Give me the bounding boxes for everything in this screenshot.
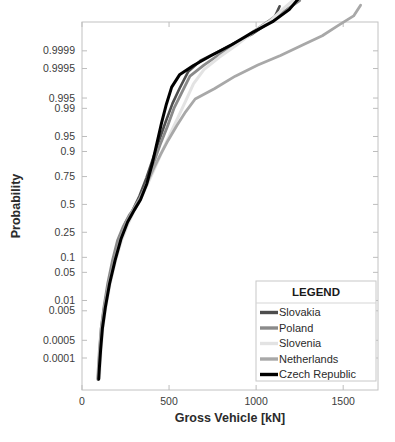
legend-label-czech-republic: Czech Republic [279,368,357,380]
y-tick-label: 0.995 [49,92,75,104]
y-tick-label: 0.9 [60,145,75,157]
y-tick-label: 0.01 [55,294,76,306]
x-tick-label: 1500 [331,395,355,407]
x-tick-label: 0 [79,395,85,407]
y-tick-label: 0.99 [55,102,76,114]
legend-label-slovakia: Slovakia [279,306,321,318]
y-tick-label: 0.0005 [43,334,75,346]
y-tick-label: 0.5 [60,198,75,210]
chart-canvas: 0.00010.00050.0050.010.050.10.250.50.750… [0,0,395,442]
x-tick-label: 500 [160,395,178,407]
y-tick-label: 0.25 [55,226,76,238]
y-tick-label: 0.9999 [43,44,75,56]
y-tick-label: 0.1 [60,251,75,263]
y-tick-label: 0.005 [49,304,75,316]
y-tick-label: 0.9995 [43,62,75,74]
x-tick-label: 1000 [244,395,268,407]
legend-label-slovenia: Slovenia [279,337,322,349]
legend-title: LEGEND [292,286,340,298]
legend-label-netherlands: Netherlands [279,353,339,365]
legend: LEGENDSlovakiaPolandSloveniaNetherlandsC… [256,281,376,381]
y-tick-label: 0.95 [55,130,76,142]
legend-label-poland: Poland [279,322,313,334]
y-tick-label: 0.75 [55,170,76,182]
y-tick-label: 0.05 [55,266,76,278]
y-axis-title: Probability [9,174,23,239]
probability-plot-figure: 0.00010.00050.0050.010.050.10.250.50.750… [0,0,395,442]
y-tick-label: 0.0001 [43,352,75,364]
x-axis-title: Gross Vehicle [kN] [175,411,285,425]
